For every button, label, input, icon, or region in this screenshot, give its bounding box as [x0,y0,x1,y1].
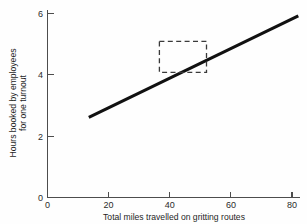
x-tick-label-60: 60 [226,200,236,210]
x-tick-label-40: 40 [165,200,175,210]
y-tick-label-6: 6 [38,9,43,19]
dashed-highlight-rectangle [159,41,206,72]
x-tick-label-20: 20 [104,200,114,210]
y-tick-label-0: 0 [38,193,43,203]
y-tick-label-2: 2 [38,132,43,142]
plot-canvas: 6 4 2 0 0 20 40 60 80 Total miles travel… [0,0,307,224]
x-axis-title: Total miles travelled on gritting routes [103,212,245,222]
trend-line-series [89,16,298,117]
chart-figure: 6 4 2 0 0 20 40 60 80 Total miles travel… [0,0,307,224]
y-tick-label-4: 4 [38,70,43,80]
y-axis-title-line2: for one turnout [18,74,28,131]
x-tick-label-0: 0 [45,200,50,210]
y-axis-title-line1: Hours booked by employees [8,49,18,158]
x-tick-label-80: 80 [287,200,297,210]
